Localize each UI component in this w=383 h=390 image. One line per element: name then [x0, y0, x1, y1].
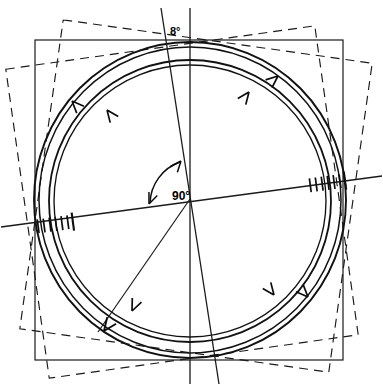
dashed-square-cw-group: [20, 20, 372, 372]
angle-arc-arrow-up-icon: [170, 158, 184, 172]
diagram-canvas: 8° 90°: [0, 0, 383, 390]
arrow-lower-right-inner-icon: [263, 282, 278, 298]
rotation-diagram: 8° 90°: [0, 0, 383, 390]
arrow-upper-right-outer-icon: [266, 72, 282, 87]
tilt-angle-label: 8°: [170, 25, 181, 37]
right-angle-label: 90°: [172, 189, 190, 203]
arrow-upper-right-inner-icon: [238, 89, 253, 105]
dashed-square-cw: [20, 20, 372, 372]
arrow-upper-left-inner-icon: [103, 107, 118, 123]
radius-line-lower-left: [98, 199, 190, 332]
arrow-lower-left-inner-icon: [127, 298, 141, 313]
